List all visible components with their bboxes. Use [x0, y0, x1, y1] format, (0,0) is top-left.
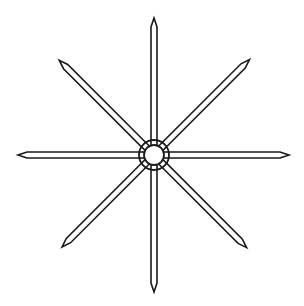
spoke-west	[18, 152, 146, 158]
hub-rings	[139, 140, 169, 170]
inner-ring	[144, 145, 164, 165]
spoke-south-east	[158, 159, 247, 248]
spoke-east	[162, 152, 289, 158]
spoke-north-east	[158, 60, 250, 152]
spoke-north	[151, 18, 157, 147]
spoke-south	[151, 163, 157, 292]
spoke-south-west	[62, 159, 150, 247]
spoke-north-west	[59, 60, 150, 151]
eight-pointed-star-diagram	[0, 0, 304, 306]
